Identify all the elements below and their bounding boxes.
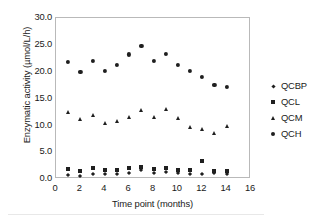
legend-item-qch: QCH: [268, 126, 326, 142]
data-point-qcbp: [151, 170, 155, 174]
data-point-qch: [127, 52, 131, 56]
data-point-qcl: [176, 168, 180, 172]
y-tick-label: 10.0: [0, 120, 52, 129]
y-tick-label: 0.0: [0, 173, 52, 182]
data-point-qch: [66, 60, 70, 64]
plot-area: [55, 17, 250, 178]
y-tick-label: 30.0: [0, 12, 52, 21]
legend-label: QCM: [281, 113, 302, 122]
data-point-qcbp: [139, 168, 143, 172]
y-tick-label: 15.0: [0, 93, 52, 102]
chart-legend: QCBPQCLQCMQCH: [268, 78, 326, 142]
data-point-qcm: [152, 115, 156, 119]
data-point-qch: [115, 63, 119, 67]
legend-label: QCH: [281, 129, 301, 138]
enzymatic-activity-scatter-chart: Enzymatic activity (µmol/L/h) 0.05.010.0…: [0, 0, 326, 220]
x-tick-label: 12: [189, 183, 213, 192]
data-point-qcl: [200, 159, 204, 163]
data-point-qch: [103, 69, 107, 73]
data-point-qcbp: [200, 172, 204, 176]
data-point-qcl: [78, 169, 82, 173]
data-point-qch: [139, 44, 143, 48]
data-point-qcl: [103, 168, 107, 172]
data-point-qcm: [127, 115, 131, 119]
legend-label: QCBP: [281, 81, 307, 90]
x-tick-label: 10: [165, 183, 189, 192]
x-tick-label: 8: [141, 183, 165, 192]
x-tick-label: 14: [214, 183, 238, 192]
data-point-qcbp: [103, 172, 107, 176]
data-point-qch: [151, 59, 155, 63]
data-point-qcbp: [78, 174, 82, 178]
data-point-qch: [212, 83, 216, 87]
data-point-qch: [78, 70, 82, 74]
x-axis-title: Time point (months): [55, 198, 250, 209]
data-point-qcm: [188, 125, 192, 129]
data-point-qcbp: [115, 172, 119, 176]
data-point-qcl: [127, 166, 131, 170]
x-tick-label: 0: [43, 183, 67, 192]
page-divider: [8, 214, 264, 215]
data-point-qcl: [225, 169, 229, 173]
y-axis-title: Enzymatic activity (µmol/L/h): [22, 5, 32, 165]
y-tick-label: 5.0: [0, 146, 52, 155]
data-point-qcl: [66, 167, 70, 171]
legend-item-qcm: QCM: [268, 110, 326, 126]
legend-item-qcbp: QCBP: [268, 78, 326, 94]
x-tick-label: 6: [116, 183, 140, 192]
y-tick-label: 25.0: [0, 39, 52, 48]
data-point-qch: [200, 75, 204, 79]
legend-item-qcl: QCL: [268, 94, 326, 110]
data-point-qcbp: [90, 172, 94, 176]
data-point-qch: [90, 59, 94, 63]
data-point-layer: [56, 18, 249, 177]
data-point-qcl: [152, 167, 156, 171]
data-point-qcbp: [164, 170, 168, 174]
data-point-qcm: [225, 124, 229, 128]
data-point-qcl: [164, 166, 168, 170]
data-point-qcm: [212, 131, 216, 135]
x-tick-label: 2: [67, 183, 91, 192]
data-point-qcl: [212, 169, 216, 173]
legend-label: QCL: [281, 97, 300, 106]
data-point-qcbp: [188, 172, 192, 176]
data-point-qcm: [176, 116, 180, 120]
data-point-qch: [176, 63, 180, 67]
data-point-qcm: [164, 107, 168, 111]
y-tick-label: 20.0: [0, 66, 52, 75]
data-point-qcm: [91, 113, 95, 117]
data-point-qcm: [66, 110, 70, 114]
data-point-qcbp: [66, 173, 70, 177]
data-point-qcm: [200, 127, 204, 131]
data-point-qcm: [139, 108, 143, 112]
square-marker-icon: [268, 97, 278, 107]
data-point-qcbp: [127, 170, 131, 174]
data-point-qcm: [115, 119, 119, 123]
data-point-qch: [225, 85, 229, 89]
data-point-qcl: [115, 168, 119, 172]
data-point-qcl: [188, 168, 192, 172]
data-point-qch: [164, 52, 168, 56]
diamond-marker-icon: [268, 81, 278, 91]
x-tick-label: 4: [92, 183, 116, 192]
data-point-qcl: [91, 166, 95, 170]
data-point-qcl: [139, 165, 143, 169]
x-tick-label: 16: [238, 183, 262, 192]
data-point-qcm: [103, 121, 107, 125]
circle-marker-icon: [268, 129, 278, 139]
data-point-qch: [188, 69, 192, 73]
triangle-marker-icon: [268, 113, 278, 123]
data-point-qcm: [78, 117, 82, 121]
